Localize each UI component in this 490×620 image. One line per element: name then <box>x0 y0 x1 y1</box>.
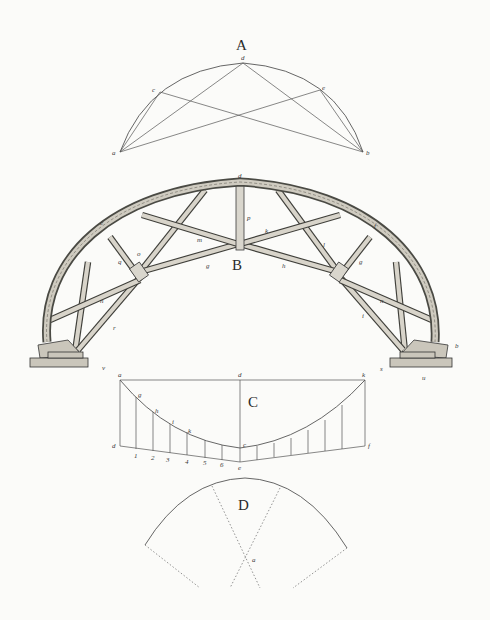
figure-a-arc <box>120 63 363 152</box>
chord-b-e <box>320 90 363 152</box>
point-label: a <box>252 556 256 564</box>
point-label: 2 <box>151 454 155 462</box>
point-label: k <box>188 427 192 435</box>
figure-d-title: D <box>238 497 249 513</box>
point-d: d <box>241 54 245 62</box>
point-a: a <box>112 149 116 157</box>
line-a-d <box>120 63 243 152</box>
point-label: n <box>100 297 104 305</box>
point-label: h <box>155 407 159 415</box>
engraving-plate: A a b c d e <box>0 0 490 620</box>
point-label: v <box>102 364 106 372</box>
point-c: c <box>152 86 156 94</box>
figure-b-title: B <box>232 257 242 273</box>
figure-b: B d e f g g h i k l m n n o p q r v b u … <box>30 172 459 382</box>
point-label: 5 <box>203 459 207 467</box>
point-e: e <box>322 84 325 92</box>
line-b-d <box>243 63 363 152</box>
point-label: a <box>118 371 122 379</box>
point-label: o <box>137 250 141 258</box>
point-label: 6 <box>220 461 224 469</box>
point-label: p <box>246 214 251 222</box>
point-label: k <box>362 371 366 379</box>
point-label: i <box>172 418 174 426</box>
point-label: e <box>238 464 241 472</box>
point-label: g <box>206 262 210 270</box>
line-b-c <box>160 92 363 152</box>
point-label: u <box>422 374 426 382</box>
point-label: d <box>112 442 116 450</box>
figure-d: D a <box>145 478 347 588</box>
point-label: 1 <box>134 452 138 460</box>
point-label: i <box>362 312 364 320</box>
king-post <box>236 184 244 250</box>
chord-a-c <box>120 92 160 152</box>
point-label: e <box>100 219 103 227</box>
figure-a-title: A <box>236 37 247 53</box>
point-label: n <box>380 297 384 305</box>
point-label: d <box>238 172 242 180</box>
point-label: d <box>238 371 242 379</box>
point-label: g <box>359 258 363 266</box>
point-label: 4 <box>185 458 189 466</box>
figure-c: C a d k g h i k c e f d 1 2 3 4 <box>112 371 371 472</box>
point-label: 3 <box>165 456 170 464</box>
point-label: f <box>368 442 371 450</box>
point-label: l <box>323 241 325 249</box>
point-b: b <box>366 149 370 157</box>
point-label: r <box>113 324 116 332</box>
point-label: g <box>138 391 142 399</box>
figure-c-title: C <box>248 394 258 410</box>
figure-a: A a b c d e <box>112 37 370 157</box>
point-label: b <box>455 342 459 350</box>
point-label: c <box>243 441 247 449</box>
line-a-e <box>120 90 320 152</box>
point-label: m <box>197 236 202 244</box>
point-label: q <box>118 258 122 266</box>
point-label: s <box>380 365 383 373</box>
point-label: h <box>282 262 286 270</box>
